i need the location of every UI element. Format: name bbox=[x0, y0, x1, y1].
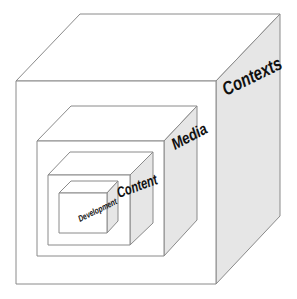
nested-cubes-diagram: Contexts Media Content Development bbox=[0, 0, 297, 299]
